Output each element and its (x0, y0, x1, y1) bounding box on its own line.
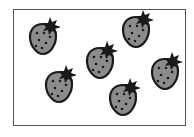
strawberry-icon-2 (44, 64, 78, 104)
strawberry-icon-5 (108, 77, 142, 117)
strawberry-icon-3 (85, 40, 119, 80)
strawberry-icon-4 (121, 9, 155, 49)
strawberry-icon-6 (150, 51, 184, 91)
strawberry-icon-1 (28, 16, 62, 56)
